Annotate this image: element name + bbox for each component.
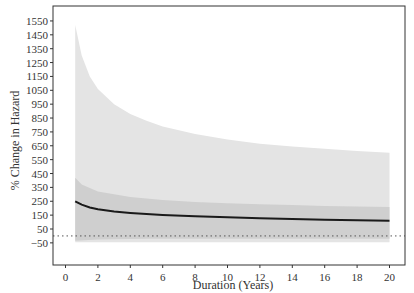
y-axis-title: % Change in Hazard	[8, 91, 22, 191]
x-tick-label: 18	[352, 271, 364, 283]
x-tick-label: 6	[160, 271, 166, 283]
y-tick-label: 1350	[26, 43, 49, 55]
y-tick-label: 450	[32, 168, 49, 180]
y-tick-label: 650	[32, 140, 49, 152]
y-tick-label: 1450	[26, 29, 49, 41]
y-tick-label: 1150	[26, 70, 48, 82]
y-axis: −505015025035045055065075085095010501150…	[26, 15, 53, 249]
x-tick-label: 0	[63, 271, 69, 283]
hazard-chart: −505015025035045055065075085095010501150…	[0, 0, 414, 293]
y-tick-label: 850	[32, 112, 49, 124]
y-tick-label: 250	[32, 195, 49, 207]
y-tick-label: 1050	[26, 84, 49, 96]
y-tick-label: 150	[32, 209, 49, 221]
x-tick-label: 20	[384, 271, 396, 283]
y-tick-label: 1250	[26, 57, 49, 69]
y-tick-label: 550	[32, 154, 49, 166]
y-tick-label: 1550	[26, 15, 49, 27]
y-tick-label: −50	[31, 237, 49, 249]
y-tick-label: 50	[37, 223, 49, 235]
y-tick-label: 950	[32, 98, 49, 110]
x-tick-label: 4	[128, 271, 134, 283]
x-axis-title: Duration (Years)	[193, 278, 273, 292]
y-tick-label: 750	[32, 126, 49, 138]
y-tick-label: 350	[32, 181, 49, 193]
plot-area	[53, 25, 405, 242]
x-tick-label: 14	[287, 271, 299, 283]
x-tick-label: 2	[95, 271, 101, 283]
x-tick-label: 16	[319, 271, 331, 283]
